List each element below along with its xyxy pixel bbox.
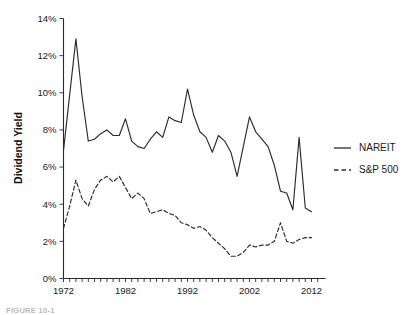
x-tick-label: 1982 [115, 285, 136, 296]
y-tick-label: 12% [37, 50, 57, 61]
series-line-nareit [64, 39, 312, 212]
y-tick-label: 6% [43, 161, 57, 172]
y-tick-label: 10% [37, 87, 57, 98]
x-tick-label: 2012 [301, 285, 322, 296]
y-tick-label: 0% [43, 273, 57, 284]
x-tick-label: 1972 [53, 285, 74, 296]
legend-label-nareit: NAREIT [359, 142, 396, 153]
legend-label-s-p-500: S&P 500 [359, 164, 399, 175]
y-tick-label: 14% [37, 13, 57, 24]
dividend-yield-line-chart: 0%2%4%6%8%10%12%14%19721982199220022012D… [0, 0, 413, 315]
x-tick-label: 1992 [177, 285, 198, 296]
y-axis-title: Dividend Yield [12, 112, 24, 184]
plot-area: 0%2%4%6%8%10%12%14%19721982199220022012D… [12, 13, 399, 296]
y-tick-label: 4% [43, 199, 57, 210]
y-tick-label: 2% [43, 236, 57, 247]
series-line-s-p-500 [64, 176, 312, 256]
figure-container: 0%2%4%6%8%10%12%14%19721982199220022012D… [0, 0, 413, 315]
y-tick-label: 8% [43, 124, 57, 135]
figure-caption: FIGURE 10-1 [6, 306, 55, 315]
x-tick-label: 2002 [239, 285, 260, 296]
